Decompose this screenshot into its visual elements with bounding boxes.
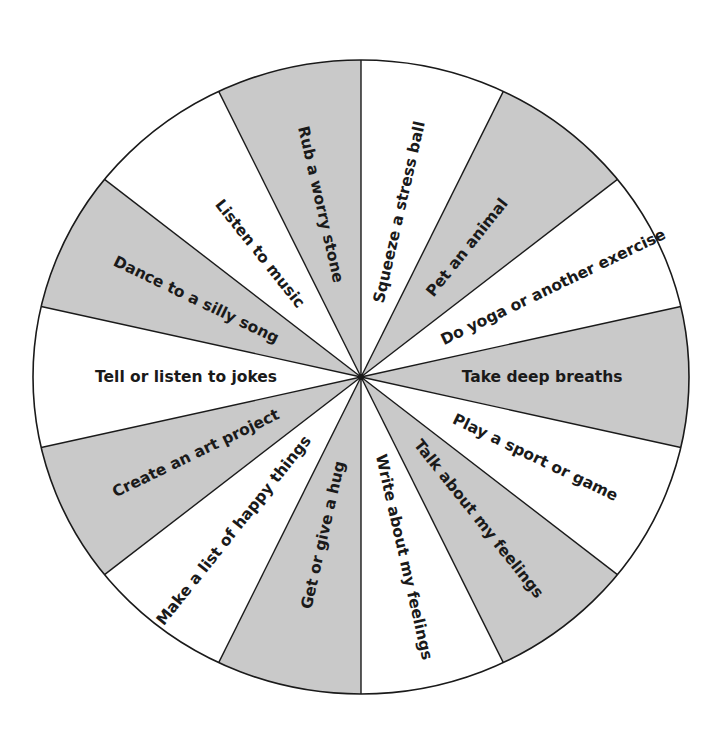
coping-skills-wheel: Squeeze a stress ballPet an animalDo yog…	[0, 0, 721, 730]
segment-label: Take deep breaths	[462, 368, 623, 386]
segment-label: Tell or listen to jokes	[95, 368, 277, 386]
wheel-hub	[358, 374, 364, 380]
